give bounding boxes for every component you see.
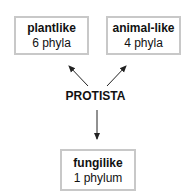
node-title: animal-like (108, 21, 179, 36)
center-label-protista: PROTISTA (0, 89, 191, 104)
node-subtitle: 4 phyla (108, 36, 179, 51)
node-subtitle: 6 phyla (16, 36, 87, 51)
node-title: fungilike (62, 156, 134, 171)
arrow-to-plantlike (69, 66, 88, 86)
node-subtitle: 1 phylum (62, 171, 134, 186)
node-animal-like: animal-like 4 phyla (106, 16, 181, 55)
node-fungilike: fungilike 1 phylum (60, 149, 136, 191)
node-title: plantlike (16, 21, 87, 36)
arrow-to-animal-like (107, 66, 126, 86)
node-plantlike: plantlike 6 phyla (14, 16, 89, 55)
